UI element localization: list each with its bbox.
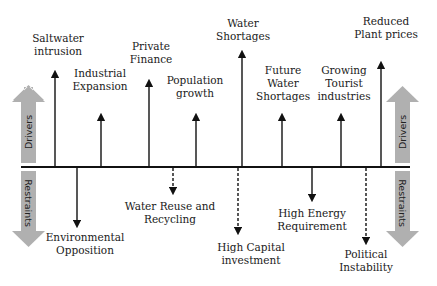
label-line: Saltwater	[32, 32, 84, 45]
label-line: industries	[317, 90, 370, 103]
left-restraints-label: Restraints	[23, 179, 34, 227]
label-line: Shortages	[256, 90, 310, 103]
driver-label-tourist: Growing Tourist industries	[317, 64, 370, 103]
left-drivers-arrow: Drivers	[12, 85, 45, 163]
label-line: intrusion	[32, 45, 84, 58]
right-restraints-arrow: Restraints	[386, 171, 419, 247]
label-line: Reduced	[354, 15, 418, 28]
left-restraints-arrow: Restraints	[12, 171, 45, 247]
label-line: Population	[167, 74, 224, 87]
label-line: Shortages	[216, 30, 270, 43]
label-line: Water	[216, 17, 270, 30]
label-line: Water Reuse and	[125, 200, 216, 213]
driver-label-industrial: Industrial Expansion	[72, 67, 127, 93]
label-line: Recycling	[125, 213, 216, 226]
label-line: Instability	[339, 261, 393, 274]
label-line: Plant prices	[354, 28, 418, 41]
right-drivers-label: Drivers	[397, 115, 408, 149]
restraint-label-capital: High Capital investment	[217, 241, 285, 267]
driver-label-water-shortages: Water Shortages	[216, 17, 270, 43]
label-line: growth	[167, 87, 224, 100]
label-line: Expansion	[72, 80, 127, 93]
restraint-label-reuse: Water Reuse and Recycling	[125, 200, 216, 226]
label-line: Private	[130, 40, 173, 53]
label-line: Opposition	[46, 244, 125, 257]
driver-label-private: Private Finance	[130, 40, 173, 66]
restraint-label-environmental: Environmental Opposition	[46, 231, 125, 257]
driver-label-plant-prices: Reduced Plant prices	[354, 15, 418, 41]
right-drivers-arrow: Drivers	[386, 86, 419, 163]
restraint-label-energy: High Energy Requirement	[277, 207, 346, 233]
label-line: Requirement	[277, 220, 346, 233]
label-line: Growing	[317, 64, 370, 77]
label-line: Industrial	[72, 67, 127, 80]
driver-label-saltwater: Saltwater intrusion	[32, 32, 84, 58]
driver-label-population: Population growth	[167, 74, 224, 100]
restraint-label-political: Political Instability	[339, 248, 393, 274]
label-line: investment	[217, 254, 285, 267]
left-drivers-label: Drivers	[23, 115, 34, 149]
label-line: Tourist	[317, 77, 370, 90]
label-line: Future	[256, 64, 310, 77]
driver-label-future: Future Water Shortages	[256, 64, 310, 103]
label-line: Political	[339, 248, 393, 261]
right-restraints-label: Restraints	[397, 179, 408, 227]
label-line: Finance	[130, 53, 173, 66]
label-line: Water	[256, 77, 310, 90]
label-line: High Energy	[277, 207, 346, 220]
label-line: High Capital	[217, 241, 285, 254]
label-line: Environmental	[46, 231, 125, 244]
